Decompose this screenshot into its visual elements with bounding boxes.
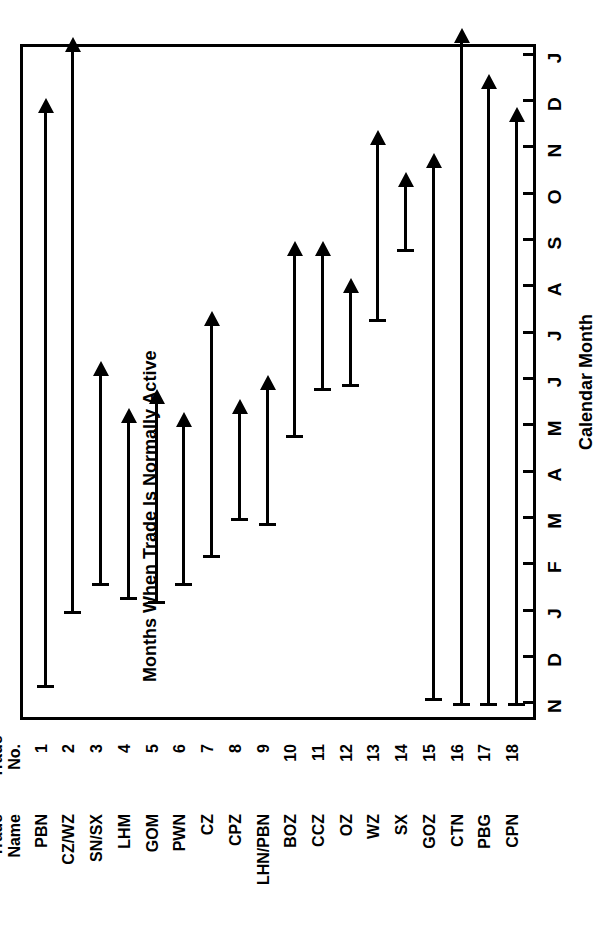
range-end-arrow-icon	[38, 98, 54, 113]
trade-name-label: BOZ	[282, 814, 300, 926]
trade-name-label: LHN/PBN	[255, 814, 273, 926]
x-axis-tick	[523, 146, 536, 149]
trade-name-label: PWN	[171, 814, 189, 926]
trade-active-range-bar	[376, 145, 379, 322]
trade-no-label: 14	[393, 744, 411, 778]
trade-no-label: 7	[199, 744, 217, 778]
range-end-arrow-icon	[481, 74, 497, 89]
trade-name-label: WZ	[365, 814, 383, 926]
trade-no-label: 9	[255, 744, 273, 778]
trade-active-range-bar	[349, 293, 352, 386]
trade-no-label: 1	[33, 744, 51, 778]
range-end-arrow-icon	[370, 130, 386, 145]
range-end-arrow-icon	[454, 28, 470, 43]
rotated-figure-canvas: Calendar Month Months When Trade Is Norm…	[0, 0, 608, 928]
trade-no-label: 3	[88, 744, 106, 778]
trade-active-range-bar	[155, 404, 158, 604]
x-axis-tick-label: M	[544, 408, 566, 448]
trade-no-label: 17	[476, 744, 494, 778]
trade-active-range-bar	[487, 89, 490, 706]
trade-no-label: 18	[504, 744, 522, 778]
range-end-arrow-icon	[287, 241, 303, 256]
x-axis-tick-label: M	[544, 501, 566, 541]
trade-no-label: 8	[227, 744, 245, 778]
x-axis-tick-label: J	[544, 594, 566, 634]
x-axis-tick-label: J	[544, 316, 566, 356]
trade-active-range-bar	[293, 256, 296, 437]
x-axis-tick	[523, 423, 536, 426]
x-axis-tick-label: N	[544, 131, 566, 171]
x-axis-tick-label: O	[544, 177, 566, 217]
trade-name-label: CZ/WZ	[60, 814, 78, 926]
trade-no-label: 2	[60, 744, 78, 778]
trade-name-label: CZ	[199, 814, 217, 926]
trade-no-label: 12	[338, 744, 356, 778]
range-start-cap	[369, 319, 386, 322]
x-axis-tick-label: S	[544, 223, 566, 263]
x-axis-tick	[523, 99, 536, 102]
range-end-arrow-icon	[149, 389, 165, 404]
range-start-cap	[397, 249, 414, 252]
x-axis-tick-label: D	[544, 84, 566, 124]
trade-active-range-bar	[266, 390, 269, 525]
range-end-arrow-icon	[232, 399, 248, 414]
x-axis-tick-label: D	[544, 640, 566, 680]
x-axis-tick	[523, 331, 536, 334]
range-end-arrow-icon	[204, 311, 220, 326]
range-start-cap	[203, 555, 220, 558]
trade-name-label: SX	[393, 814, 411, 926]
trade-name-label: GOZ	[421, 814, 439, 926]
range-start-cap	[480, 703, 497, 706]
trade-active-range-bar	[99, 377, 102, 586]
trade-no-label: 13	[365, 744, 383, 778]
x-axis-tick	[523, 238, 536, 241]
range-end-arrow-icon	[343, 278, 359, 293]
x-axis-tick	[523, 284, 536, 287]
range-start-cap	[342, 384, 359, 387]
trade-active-range-bar	[460, 43, 463, 706]
range-start-cap	[425, 698, 442, 701]
x-axis-tick	[523, 655, 536, 658]
x-axis-tick	[523, 470, 536, 473]
trade-active-range-bar	[238, 414, 241, 521]
x-axis-tick-label: J	[544, 362, 566, 402]
trade-name-label: PBN	[33, 814, 51, 926]
trade-active-range-bar	[432, 168, 435, 701]
trade-active-range-bar	[71, 52, 74, 613]
range-end-arrow-icon	[65, 37, 81, 52]
range-start-cap	[120, 597, 137, 600]
range-start-cap	[259, 523, 276, 526]
range-start-cap	[314, 388, 331, 391]
range-end-arrow-icon	[509, 107, 525, 122]
trade-name-label: OZ	[338, 814, 356, 926]
trade-no-header-line2: No.	[6, 744, 24, 778]
range-start-cap	[453, 703, 470, 706]
trade-no-label: 11	[310, 744, 328, 778]
trade-no-label: 4	[116, 744, 134, 778]
trade-active-range-bar	[44, 113, 47, 688]
trade-active-range-bar	[404, 187, 407, 253]
trade-name-label: PBG	[476, 814, 494, 926]
trade-no-label: 5	[144, 744, 162, 778]
x-axis-tick	[523, 377, 536, 380]
range-start-cap	[175, 583, 192, 586]
trade-active-range-bar	[182, 427, 185, 585]
x-axis-tick	[523, 53, 536, 56]
range-end-arrow-icon	[121, 408, 137, 423]
trade-name-header-line2: Name	[6, 814, 24, 926]
range-start-cap	[231, 518, 248, 521]
trade-name-label: CPN	[504, 814, 522, 926]
range-end-arrow-icon	[260, 375, 276, 390]
trade-no-label: 10	[282, 744, 300, 778]
trade-name-label: CTN	[449, 814, 467, 926]
range-start-cap	[37, 685, 54, 688]
x-axis-tick	[523, 516, 536, 519]
x-axis-tick-label: A	[544, 269, 566, 309]
range-end-arrow-icon	[398, 172, 414, 187]
trade-name-label: GOM	[144, 814, 162, 926]
trade-active-range-bar	[321, 256, 324, 391]
range-start-cap	[92, 583, 109, 586]
x-axis-tick	[523, 192, 536, 195]
range-start-cap	[64, 611, 81, 614]
trade-active-range-bar	[515, 122, 518, 706]
